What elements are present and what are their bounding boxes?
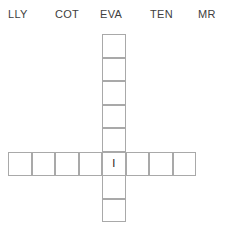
across-cell-6[interactable] — [126, 152, 150, 176]
down-cell-1[interactable] — [102, 34, 126, 58]
across-cell-4[interactable] — [79, 152, 103, 176]
cell-letter: I — [103, 153, 125, 175]
cell-letter — [33, 153, 55, 175]
cell-letter — [103, 106, 125, 128]
across-cell-8[interactable] — [173, 152, 197, 176]
cell-letter — [9, 153, 31, 175]
down-cell-5[interactable] — [102, 128, 126, 152]
down-cell-4[interactable] — [102, 105, 126, 129]
cell-letter — [103, 35, 125, 57]
across-cell-7[interactable] — [149, 152, 173, 176]
across-cell-3[interactable] — [55, 152, 79, 176]
down-cell-2[interactable] — [102, 58, 126, 82]
cell-letter — [103, 82, 125, 104]
down-cell-3[interactable] — [102, 81, 126, 105]
cell-letter — [127, 153, 149, 175]
cell-letter — [103, 176, 125, 198]
cell-letter — [103, 200, 125, 222]
cell-letter — [150, 153, 172, 175]
cell-letter — [56, 153, 78, 175]
cell-letter — [80, 153, 102, 175]
crossword-grid: I — [0, 0, 228, 238]
across-cell-1[interactable] — [8, 152, 32, 176]
down-cell-8[interactable] — [102, 199, 126, 223]
down-cell-7[interactable] — [102, 175, 126, 199]
cell-letter — [103, 59, 125, 81]
cell-letter — [174, 153, 196, 175]
cell-letter — [103, 129, 125, 151]
across-cell-5[interactable]: I — [102, 152, 126, 176]
across-cell-2[interactable] — [32, 152, 56, 176]
